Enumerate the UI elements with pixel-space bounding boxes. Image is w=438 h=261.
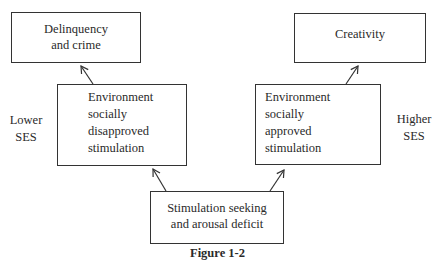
stimulation-line1: Stimulation seeking — [151, 201, 283, 216]
higher-ses-label: Higher SES — [392, 112, 436, 144]
lower-ses-line2: SES — [6, 130, 46, 145]
arrow-env-left-to-delinquency — [81, 66, 93, 84]
arrow-stim-to-env-right — [270, 170, 284, 191]
creativity-box: Creativity — [294, 13, 426, 63]
lower-ses-line1: Lower — [6, 113, 46, 128]
stimulation-line2: and arousal deficit — [151, 217, 283, 232]
env-left-line2: socially — [88, 107, 127, 122]
env-left-line1: Environment — [88, 90, 153, 105]
figure-caption: Figure 1-2 — [190, 246, 245, 261]
higher-ses-line2: SES — [392, 129, 436, 144]
env-left-line4: stimulation — [88, 141, 144, 156]
lower-ses-label: Lower SES — [6, 113, 46, 145]
env-right-line1: Environment — [265, 90, 330, 105]
arrow-stim-to-env-left — [153, 169, 166, 191]
stimulation-box: Stimulation seeking and arousal deficit — [150, 191, 284, 244]
creativity-line1: Creativity — [295, 27, 425, 42]
env-right-line2: socially — [265, 107, 304, 122]
delinquency-line1: Delinquency — [12, 22, 140, 37]
delinquency-line2: and crime — [12, 38, 140, 53]
env-right-line4: stimulation — [265, 141, 321, 156]
env-left-box: Environment socially disapproved stimula… — [57, 84, 187, 166]
higher-ses-line1: Higher — [392, 112, 436, 127]
env-right-box: Environment socially approved stimulatio… — [255, 84, 381, 165]
env-left-line3: disapproved — [88, 124, 149, 139]
env-right-line3: approved — [265, 124, 312, 139]
arrow-env-right-to-creativity — [346, 66, 358, 84]
delinquency-box: Delinquency and crime — [11, 12, 141, 63]
